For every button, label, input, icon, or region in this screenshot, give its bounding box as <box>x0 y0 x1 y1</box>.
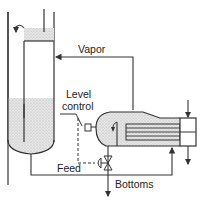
bottoms-label: Bottoms <box>115 178 154 190</box>
level-controller <box>85 124 91 131</box>
reboiler-diagram: Vapor Level control Bottoms Feed <box>0 0 207 211</box>
column-sump-liquid <box>8 98 54 154</box>
overflow-arrow-icon <box>16 25 24 32</box>
feed-label: Feed <box>57 162 81 174</box>
tray-liquid <box>24 28 54 41</box>
valve-actuator-icon <box>98 158 101 168</box>
control-label: control <box>62 100 94 112</box>
level-signal-line <box>60 114 82 126</box>
kettle-shell-liquid <box>96 112 180 146</box>
vapor-label: Vapor <box>78 43 106 55</box>
level-label: Level <box>66 88 91 100</box>
